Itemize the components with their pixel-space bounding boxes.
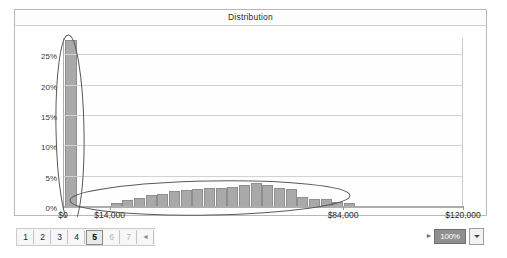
y-tick-label: 20% — [23, 82, 57, 91]
zoom-control[interactable]: ► 100% — [424, 228, 484, 244]
y-axis-labels: 0%5%10%15%20%25% — [23, 26, 57, 216]
x-tick-label: $84,000 — [328, 210, 359, 220]
histogram-bar — [251, 183, 262, 207]
histogram-bar — [216, 188, 227, 207]
chart-window: Distribution 0%5%10%15%20%25% $0$14,000$… — [14, 9, 487, 216]
histogram-bars — [64, 38, 463, 207]
gridline — [64, 85, 463, 86]
x-tick-mark — [63, 206, 64, 210]
histogram-bar — [181, 190, 192, 207]
plot-area — [63, 38, 463, 208]
gridline — [64, 145, 463, 146]
page-tab-5[interactable]: 5 — [86, 230, 103, 245]
page-next-arrow-icon[interactable]: ◄ — [138, 230, 154, 244]
histogram-bar — [65, 40, 77, 207]
zoom-prev-arrow-icon[interactable]: ► — [424, 229, 434, 243]
plot-wrapper: 0%5%10%15%20%25% $0$14,000$84,000$120,00… — [15, 26, 486, 216]
y-tick-label: 0% — [23, 204, 57, 213]
bottom-toolbar: 1234567◄ ► 100% — [14, 228, 487, 248]
x-tick-label: $14,000 — [94, 210, 125, 220]
page-tab-7[interactable]: 7 — [121, 230, 137, 244]
histogram-bar — [274, 188, 285, 207]
y-tick-label: 10% — [23, 143, 57, 152]
page-tab-4[interactable]: 4 — [69, 230, 85, 244]
y-tick-label: 5% — [23, 173, 57, 182]
histogram-bar — [169, 191, 180, 207]
page-tab-1[interactable]: 1 — [18, 230, 34, 244]
histogram-bar — [204, 188, 215, 207]
page-tab-6[interactable]: 6 — [104, 230, 120, 244]
page-tab-strip[interactable]: 1234567◄ — [16, 228, 155, 246]
x-tick-label: $120,000 — [445, 210, 480, 220]
x-tick-mark — [110, 206, 111, 210]
y-tick-label: 15% — [23, 112, 57, 121]
gridline — [64, 206, 463, 207]
page-tab-2[interactable]: 2 — [35, 230, 51, 244]
x-tick-mark — [463, 206, 464, 210]
histogram-bar — [239, 185, 250, 207]
x-axis-labels: $0$14,000$84,000$120,000 — [63, 210, 463, 224]
chevron-down-icon[interactable] — [469, 228, 484, 245]
histogram-bar — [262, 185, 273, 207]
page-title: Distribution — [15, 11, 486, 24]
histogram-bar — [192, 189, 203, 207]
y-tick-label: 25% — [23, 52, 57, 61]
x-tick-label: $0 — [58, 210, 67, 220]
histogram-bar — [227, 187, 238, 207]
gridline — [64, 115, 463, 116]
page-tab-3[interactable]: 3 — [52, 230, 68, 244]
chart-title-bar: Distribution — [15, 10, 486, 26]
chart-screenshot-root: Distribution 0%5%10%15%20%25% $0$14,000$… — [0, 0, 507, 258]
gridline — [64, 54, 463, 55]
histogram-bar — [286, 189, 297, 207]
gridline — [64, 176, 463, 177]
zoom-input[interactable]: 100% — [434, 229, 466, 244]
x-tick-mark — [343, 206, 344, 210]
